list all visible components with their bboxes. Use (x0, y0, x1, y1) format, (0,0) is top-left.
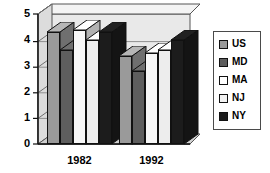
y-tick-label: 1 (14, 112, 30, 123)
legend-item-us[interactable]: US (219, 38, 246, 50)
legend-label: MA (232, 75, 248, 85)
legend-swatch-icon (219, 76, 228, 85)
legend-swatch-icon (219, 40, 228, 49)
bar[interactable] (158, 50, 171, 144)
bar[interactable] (73, 30, 86, 144)
legend-label: NJ (232, 93, 245, 103)
legend-item-md[interactable]: MD (219, 56, 248, 68)
bar[interactable] (86, 40, 99, 144)
bar[interactable] (132, 71, 145, 144)
y-tick-label: 3 (14, 60, 30, 71)
legend-label: US (232, 39, 246, 49)
y-tick-label: 5 (14, 8, 30, 19)
x-axis-label: 1992 (111, 155, 192, 166)
bar[interactable] (99, 32, 112, 144)
bar[interactable] (145, 53, 158, 144)
legend-item-nj[interactable]: NJ (219, 92, 245, 104)
chart-legend[interactable]: USMDMANJNY (213, 31, 261, 130)
x-axis-label: 1982 (39, 155, 120, 166)
chart-root: 012345 19821992 USMDMANJNY (0, 0, 270, 173)
legend-swatch-icon (219, 112, 228, 121)
bar[interactable] (60, 50, 73, 144)
legend-label: NY (232, 111, 246, 121)
legend-item-ma[interactable]: MA (219, 74, 248, 86)
legend-item-ny[interactable]: NY (219, 110, 246, 122)
plot-area: 012345 19821992 (0, 0, 200, 173)
y-tick-label: 0 (14, 138, 30, 149)
legend-swatch-icon (219, 58, 228, 67)
legend-label: MD (232, 57, 248, 67)
bar[interactable] (119, 56, 132, 144)
y-tick-label: 2 (14, 86, 30, 97)
y-tick-label: 4 (14, 34, 30, 45)
legend-swatch-icon (219, 94, 228, 103)
bar[interactable] (47, 32, 60, 144)
bar[interactable] (171, 40, 184, 144)
